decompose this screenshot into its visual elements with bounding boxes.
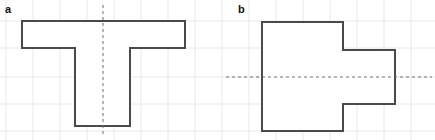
symmetry-axes-layer <box>0 0 435 140</box>
panel-label-a: a <box>5 4 11 15</box>
panel-label-b: b <box>238 4 245 15</box>
figure-root: a b <box>0 0 435 140</box>
